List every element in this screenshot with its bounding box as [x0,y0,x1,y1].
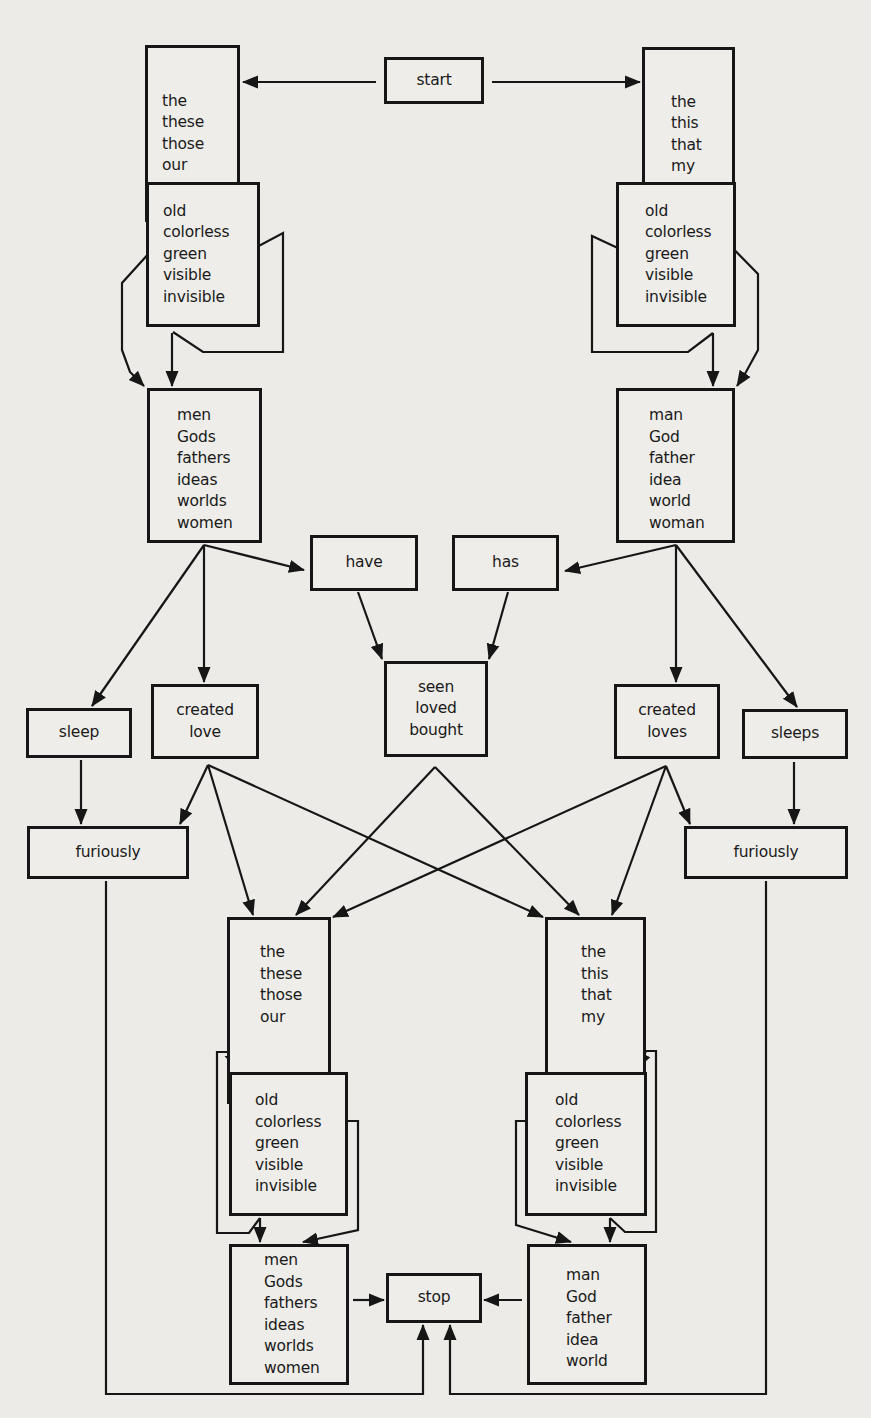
word: world [649,491,691,513]
state-noun-plural-bottom: men Gods fathers ideas worlds women [229,1244,349,1385]
word: those [260,985,302,1007]
state-noun-singular-bottom: man God father idea world [527,1244,647,1385]
word: woman [649,513,705,535]
word: ideas [264,1315,304,1337]
state-stop: stop [386,1273,482,1323]
word: worlds [177,491,227,513]
edge-participle-to-det-sg-bottom [435,767,579,915]
state-adjective-right-bottom: old colorless green visible invisible [525,1072,647,1216]
word: ideas [177,470,217,492]
word: green [163,244,207,266]
state-label: start [416,70,451,92]
edge-noun-pl-to-sleep [92,545,204,706]
state-created-love: created love [151,684,259,759]
state-label: have [345,552,382,574]
word: the [260,942,285,964]
state-sleep: sleep [26,708,132,758]
word: old [163,201,186,223]
state-have: have [310,535,418,591]
word: my [671,156,695,178]
word: bought [409,720,463,742]
edge-created-loves-to-det-pl-bottom [333,766,666,917]
word: old [255,1090,278,1112]
word: green [645,244,689,266]
word: love [189,722,221,744]
word: old [645,201,668,223]
word: invisible [555,1176,617,1198]
word: these [162,112,204,134]
edge-participle-to-det-pl-bottom [296,767,435,915]
word: colorless [555,1112,621,1134]
word: seen [418,677,454,699]
word: this [671,113,698,135]
word: the [162,91,187,113]
word: women [264,1358,320,1380]
word: God [649,427,680,449]
state-label: sleeps [771,723,819,745]
word: father [566,1308,612,1330]
word: visible [163,265,211,287]
word: invisible [255,1176,317,1198]
word: invisible [163,287,225,309]
word: old [555,1090,578,1112]
word: our [162,155,187,177]
state-start: start [384,57,484,104]
word: colorless [255,1112,321,1134]
edge-created-love-to-furiously [180,765,208,824]
word: colorless [163,222,229,244]
word: this [581,964,608,986]
edge-noun-sg-to-has [565,545,676,571]
word: Gods [264,1272,303,1294]
word: green [255,1133,299,1155]
state-label: has [492,552,519,574]
edge-has-to-participle [489,592,508,659]
word: created [176,700,234,722]
word: created [638,700,696,722]
word: loves [647,722,687,744]
edge-created-love-to-det-sg-bottom [208,765,543,917]
word: colorless [645,222,711,244]
edge-created-loves-to-det-sg-bottom [612,766,666,915]
edge-have-to-participle [358,592,382,659]
state-label: stop [418,1287,451,1309]
word: father [649,448,695,470]
state-noun-singular-top: man God father idea world woman [616,388,735,543]
word: man [649,405,683,427]
word: men [264,1250,298,1272]
grammar-diagram: start the these those our the this that … [0,0,871,1418]
state-furiously-left: furiously [27,826,189,879]
state-label: sleep [59,722,99,744]
word: God [566,1287,597,1309]
state-furiously-right: furiously [684,826,848,879]
word: my [581,1007,605,1029]
word: green [555,1133,599,1155]
state-sleeps: sleeps [742,709,848,759]
word: man [566,1265,600,1287]
word: the [581,942,606,964]
state-participle: seen loved bought [384,661,488,757]
edge-noun-sg-to-sleeps [676,545,797,707]
word: that [671,135,702,157]
word: idea [649,470,681,492]
word: these [260,964,302,986]
state-label: furiously [733,842,798,864]
state-adjective-right-top: old colorless green visible invisible [616,182,736,327]
word: those [162,134,204,156]
state-adjective-left-bottom: old colorless green visible invisible [229,1072,348,1216]
state-label: furiously [75,842,140,864]
word: men [177,405,211,427]
state-noun-plural-top: men Gods fathers ideas worlds women [147,388,262,543]
edge-noun-pl-to-have [204,545,304,570]
edge-created-love-to-det-pl-bottom [208,765,253,915]
word: worlds [264,1336,314,1358]
word: world [566,1351,608,1373]
word: visible [555,1155,603,1177]
word: women [177,513,233,535]
word: visible [255,1155,303,1177]
word: loved [415,698,456,720]
word: our [260,1007,285,1029]
word: that [581,985,612,1007]
state-created-loves: created loves [614,684,720,759]
word: idea [566,1330,598,1352]
word: fathers [177,448,230,470]
